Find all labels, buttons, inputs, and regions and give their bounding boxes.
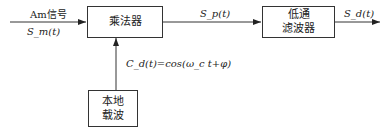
multiplier-block: 乘法器 xyxy=(87,6,163,38)
input-signal-label: S_m(t) xyxy=(27,26,60,37)
osc-line2: 载波 xyxy=(102,109,124,123)
multiplier-label: 乘法器 xyxy=(109,15,142,29)
input-label: Am信号 xyxy=(30,6,67,21)
lpf-line1: 低通 xyxy=(282,8,315,22)
mid-signal-label: S_p(t) xyxy=(200,8,230,19)
local-oscillator-block: 本地载波 xyxy=(88,90,138,127)
output-signal-label: S_d(t) xyxy=(344,8,374,19)
carrier-expression: C_d(t)=cos(ω_c t+φ) xyxy=(126,58,231,69)
lowpass-filter-block: 低通滤波器 xyxy=(262,6,335,38)
lpf-line2: 滤波器 xyxy=(282,22,315,36)
osc-line1: 本地 xyxy=(102,95,124,109)
